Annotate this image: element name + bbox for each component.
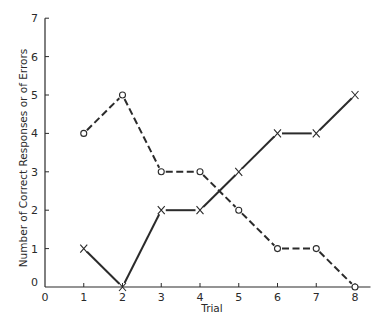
x-marker-icon — [274, 129, 281, 137]
x-tick-label: 2 — [119, 291, 126, 304]
x-marker-icon — [313, 129, 320, 137]
x-marker-icon — [158, 206, 165, 214]
correct-line-segment — [125, 214, 160, 283]
x-axis-label: Trial — [200, 302, 222, 314]
x-tick-label: 7 — [313, 291, 320, 304]
circle-marker-icon — [352, 284, 358, 290]
circle-marker-icon — [120, 92, 126, 98]
errors-line-segment — [87, 98, 119, 130]
circle-marker-icon — [275, 246, 281, 252]
circle-marker-icon — [313, 246, 319, 252]
x-tick-label: 0 — [42, 291, 49, 304]
y-tick-label: 5 — [31, 89, 38, 102]
y-tick-label: 6 — [31, 51, 38, 64]
x-tick-label: 5 — [235, 291, 242, 304]
y-tick-label: 2 — [31, 204, 38, 217]
y-tick-label: 1 — [31, 243, 38, 256]
x-marker-icon — [352, 91, 359, 99]
line-chart: 01234567012345678TrialNumber of Correct … — [0, 0, 387, 332]
errors-line-segment — [242, 213, 274, 245]
circle-marker-icon — [197, 169, 203, 175]
y-tick-label: 7 — [31, 12, 38, 25]
x-marker-icon — [80, 245, 87, 253]
y-tick-label: 4 — [31, 127, 38, 140]
correct-line-segment — [87, 252, 119, 284]
x-tick-label: 1 — [80, 291, 87, 304]
errors-line-segment — [125, 99, 160, 168]
x-marker-icon — [197, 206, 204, 214]
errors-line-segment — [319, 252, 351, 284]
correct-line-segment — [319, 98, 351, 130]
y-axis-label: Number of Correct Responses or of Errors — [17, 49, 29, 267]
y-tick-label: 0 — [31, 276, 38, 289]
circle-marker-icon — [158, 169, 164, 175]
x-tick-label: 8 — [352, 291, 359, 304]
x-tick-label: 3 — [158, 291, 165, 304]
plot-area: 01234567012345678TrialNumber of Correct … — [0, 0, 387, 332]
circle-marker-icon — [236, 207, 242, 213]
y-tick-label: 3 — [31, 166, 38, 179]
x-marker-icon — [235, 168, 242, 176]
x-tick-label: 6 — [274, 291, 281, 304]
correct-line-segment — [242, 137, 274, 169]
circle-marker-icon — [81, 130, 87, 136]
